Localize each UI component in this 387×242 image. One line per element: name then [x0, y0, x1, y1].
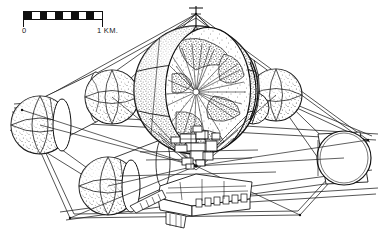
scale-bar-segment — [24, 12, 32, 19]
scale-bar-label-max: 1 KM. — [97, 26, 118, 35]
scale-bar-segment — [63, 12, 71, 19]
scale-bar-segment — [86, 12, 94, 19]
scale-bar-track — [23, 11, 103, 20]
scale-bar-segment — [47, 12, 55, 19]
scale-bar-segment — [40, 12, 48, 19]
scale-bar-segment — [32, 12, 40, 19]
scale-bar-label-min: 0 — [22, 26, 26, 35]
scale-bar-segment — [79, 12, 87, 19]
scale-bar-segment — [55, 12, 63, 19]
scale-bar-segment — [94, 12, 102, 19]
scale-bar-segment — [71, 12, 79, 19]
scale-bar: 0 1 KM. — [23, 11, 103, 43]
space-colony-figure: 0 1 KM. — [0, 0, 387, 242]
